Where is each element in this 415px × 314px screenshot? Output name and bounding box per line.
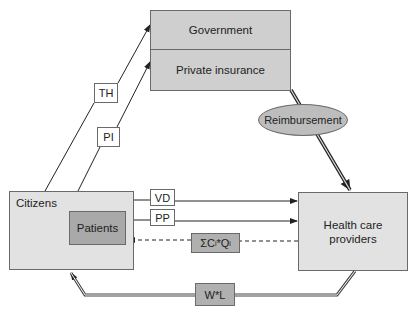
citizens-label: Citizens bbox=[16, 197, 57, 209]
reimbursement-label: Reimbursement bbox=[264, 114, 342, 126]
government-box: Government Private insurance bbox=[150, 10, 291, 91]
wl-label: W*L bbox=[195, 283, 235, 306]
pi-label: PI bbox=[97, 127, 120, 147]
health-care-providers-label-line2: providers bbox=[324, 232, 383, 246]
government-label: Government bbox=[151, 11, 290, 50]
patients-box: Patients bbox=[69, 211, 126, 245]
sum-mid: *Q bbox=[216, 237, 229, 249]
health-care-providers-box: Health care providers bbox=[298, 192, 408, 271]
private-insurance-label: Private insurance bbox=[151, 49, 290, 91]
patients-label: Patients bbox=[77, 222, 119, 234]
reimbursement-ellipse: Reimbursement bbox=[258, 104, 348, 136]
sum-ci-qi-label: ΣCi*Qi bbox=[191, 233, 240, 253]
sum-sub-i2: i bbox=[229, 240, 231, 247]
vd-label: VD bbox=[150, 189, 175, 206]
th-label: TH bbox=[94, 83, 118, 103]
th-arrow bbox=[45, 25, 150, 191]
health-care-providers-label-line1: Health care bbox=[324, 218, 383, 232]
sum-prefix: ΣC bbox=[200, 237, 215, 249]
pp-label: PP bbox=[150, 209, 175, 226]
